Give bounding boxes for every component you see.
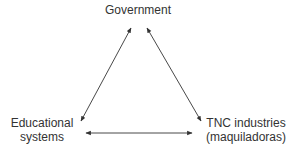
arrow-government-education: [81, 28, 131, 121]
arrow-government-tnc: [147, 28, 201, 121]
node-tnc-label-line2: (maquiladoras): [204, 130, 288, 144]
node-tnc-industries: TNC industries (maquiladoras): [204, 116, 288, 144]
node-tnc-label-line1: TNC industries: [204, 116, 288, 130]
node-government-label: Government: [105, 3, 169, 17]
node-educational-systems: Educational systems: [8, 116, 76, 144]
node-educational-label-line2: systems: [8, 130, 76, 144]
node-government: Government: [105, 3, 169, 17]
node-educational-label-line1: Educational: [8, 116, 76, 130]
